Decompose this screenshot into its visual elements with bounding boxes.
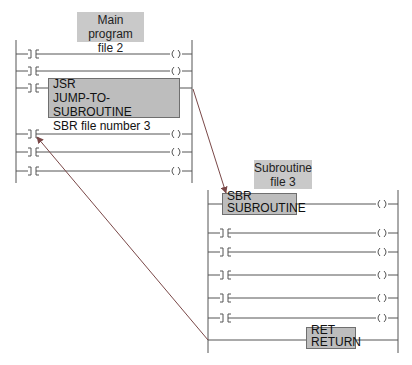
main-program-label-line2: file 2 (77, 41, 144, 55)
main-program-label: Main program file 2 (77, 12, 144, 42)
sbr-instruction-box: SBR SUBROUTINE (222, 193, 297, 215)
jsr-instruction-box: JSR JUMP-TO-SUBROUTINE SBR file number 3 (48, 78, 180, 118)
ret-name: RETURN (311, 336, 355, 349)
main-program-label-line1: Main program (77, 13, 144, 41)
sub-rung-5 (208, 294, 398, 302)
ladder-diagram (0, 0, 412, 365)
sub-rung-3 (208, 248, 398, 256)
ret-instruction-box: RET RETURN (306, 327, 356, 349)
return-arrow (37, 137, 208, 340)
sub-rung-2 (208, 229, 398, 237)
jsr-name: JUMP-TO-SUBROUTINE (53, 91, 179, 119)
sbr-name: SUBROUTINE (227, 202, 296, 215)
subroutine-label-line1: Subroutine (254, 161, 312, 175)
subroutine-label-line2: file 3 (254, 175, 312, 189)
jump-arrow (193, 89, 226, 193)
main-rung-6 (16, 167, 192, 175)
sub-rung-6 (208, 314, 398, 322)
jsr-parameter: SBR file number 3 (53, 119, 179, 133)
jsr-mnemonic: JSR (53, 77, 179, 91)
main-rung-2 (16, 67, 192, 75)
sub-rung-4 (208, 271, 398, 279)
subroutine-label: Subroutine file 3 (254, 160, 312, 189)
main-rung-5 (16, 148, 192, 156)
